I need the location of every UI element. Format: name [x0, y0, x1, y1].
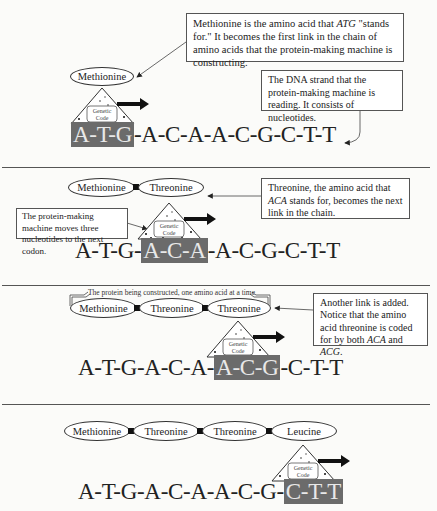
callout-threonine-explanation: Threonine, the amino acid that ACA stand…	[261, 178, 410, 219]
direction-arrow-icon	[318, 455, 350, 467]
svg-text:Genetic: Genetic	[294, 465, 313, 471]
amino-acid-label: Methionine	[79, 303, 127, 314]
direction-arrow-icon	[253, 331, 285, 343]
amino-acid-label: Threonine	[213, 426, 256, 437]
protein-making-machine: Genetic Code	[70, 87, 150, 125]
amino-acid-threonine: Threonine	[207, 298, 271, 318]
protein-chain-label: The protein being constructed, one amino…	[88, 288, 255, 297]
panel-divider	[2, 167, 430, 168]
amino-acid-label: Threonine	[217, 303, 260, 314]
active-codon: A-C-G	[214, 355, 280, 380]
amino-acid-label: Methionine	[78, 71, 126, 82]
callout-text: stands for, becomes the next link in the…	[268, 195, 403, 219]
callout-text: and	[386, 334, 403, 345]
sequence-after: -A-C-G-C-T-T	[208, 238, 340, 263]
amino-acid-label: Threonine	[144, 426, 187, 437]
genetic-code-triangle-icon: Genetic Code	[271, 444, 351, 482]
amino-acid-label: Leucine	[287, 426, 321, 437]
genetic-code-triangle-icon: Genetic Code	[206, 320, 286, 358]
callout-dna-strand: The DNA strand that the protein-making m…	[261, 70, 403, 111]
amino-acid-methionine: Methionine	[70, 67, 134, 86]
sequence-before: A-T-G-A-C-A-	[78, 355, 214, 380]
amino-acid-label: Methionine	[73, 426, 121, 437]
callout-text: Threonine, the amino acid that	[268, 182, 390, 193]
codon-italic: ACA	[268, 195, 287, 206]
svg-text:Code: Code	[297, 472, 310, 478]
protein-making-machine: Genetic Code	[137, 202, 217, 240]
svg-text:Genetic: Genetic	[93, 108, 112, 114]
genetic-code-triangle-icon: Genetic Code	[70, 87, 150, 125]
direction-arrow-icon	[184, 213, 216, 225]
dna-sequence: A-T-G-A-C-A-A-C-G-C-T-T	[78, 481, 343, 503]
svg-text:Code: Code	[96, 115, 109, 121]
amino-acid-methionine: Methionine	[64, 421, 130, 441]
amino-acid-methionine: Methionine	[68, 178, 135, 197]
svg-text:Genetic: Genetic	[160, 223, 179, 229]
callout-text: Methionine is the amino acid that	[193, 18, 336, 29]
protein-making-machine: Genetic Code	[271, 444, 351, 482]
genetic-code-triangle-icon: Genetic Code	[137, 202, 217, 240]
amino-acid-threonine: Threonine	[138, 178, 204, 197]
callout-methionine-explanation: Methionine is the amino acid that ATG "s…	[186, 13, 404, 62]
sequence-after: -C-T-T	[280, 355, 343, 380]
amino-acid-label: Methionine	[77, 182, 125, 193]
amino-acid-label: Threonine	[150, 303, 193, 314]
codon-italic: ATG	[336, 18, 355, 29]
svg-text:Code: Code	[232, 348, 245, 354]
panel-divider	[2, 404, 430, 405]
callout-machine-moves: The protein-making machine moves three n…	[16, 208, 128, 239]
panel-divider	[2, 285, 430, 286]
active-codon: A-C-A	[141, 238, 207, 263]
dna-sequence: A-T-G-A-C-A-A-C-G-C-T-T	[75, 240, 340, 262]
svg-text:Code: Code	[163, 230, 176, 236]
callout-another-link: Another link is added. Notice that the a…	[313, 293, 428, 346]
amino-acid-threonine: Threonine	[139, 298, 205, 318]
svg-text:Genetic: Genetic	[229, 341, 248, 347]
amino-acid-threonine: Threonine	[202, 421, 268, 441]
active-codon: C-T-T	[284, 479, 343, 504]
protein-making-machine: Genetic Code	[206, 320, 286, 358]
sequence-before: A-T-G-A-C-A-A-C-G-	[78, 479, 284, 504]
amino-acid-label: Threonine	[149, 182, 192, 193]
sequence-after: -A-C-A-A-C-G-C-T-T	[134, 122, 336, 147]
codon-italic: ACA	[367, 334, 386, 345]
dna-sequence: A-T-G-A-C-A-A-C-G-C-T-T	[71, 124, 336, 146]
amino-acid-threonine: Threonine	[133, 421, 199, 441]
sequence-before: A-T-G-	[75, 238, 141, 263]
direction-arrow-icon	[117, 98, 149, 110]
active-codon: A-T-G	[71, 122, 134, 147]
amino-acid-methionine: Methionine	[70, 298, 137, 318]
dna-sequence: A-T-G-A-C-A-A-C-G-C-T-T	[78, 357, 343, 379]
amino-acid-leucine: Leucine	[271, 421, 337, 441]
